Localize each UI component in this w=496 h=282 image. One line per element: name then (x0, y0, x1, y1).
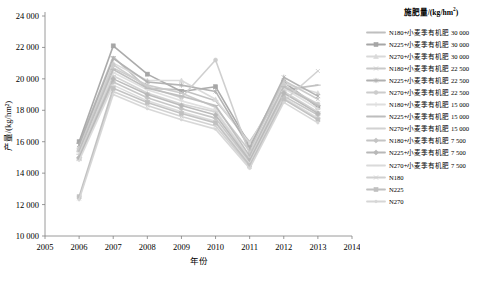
y-tick-label: 16 000 (16, 137, 39, 147)
legend-item-label: N225+小麦季有机肥 15 000 (389, 113, 469, 120)
legend-item[interactable]: N270 (366, 195, 496, 207)
legend-item-label: N270+小麦季有机肥 22 500 (389, 89, 469, 96)
legend-item[interactable]: N180+小麦季有机肥 7 500 (366, 135, 496, 147)
legend-item[interactable]: N225+小麦季有机肥 15 000 (366, 111, 496, 123)
legend-swatch (366, 51, 386, 62)
y-tick-label: 22 000 (16, 42, 39, 52)
legend-swatch (366, 123, 386, 134)
legend-item-label: N180+小麦季有机肥 7 500 (389, 137, 466, 144)
legend-swatch (366, 147, 386, 158)
legend-swatch (366, 87, 386, 98)
legend-swatch (366, 63, 386, 74)
y-axis-title: 产量/(kg/hm²) (3, 101, 13, 151)
y-tick-label: 14 000 (16, 168, 39, 178)
legend-item-label: N225 (389, 186, 404, 193)
x-tick-label: 2013 (309, 242, 326, 252)
series-group (76, 44, 320, 201)
x-tick-label: 2014 (344, 242, 361, 252)
legend-title: 施肥量/(kg/hm2) (366, 6, 496, 17)
y-tick-labels: 10 00012 00014 00016 00018 00020 00022 0… (16, 11, 39, 241)
x-tick-label: 2009 (173, 242, 190, 252)
x-tick-label: 2007 (105, 242, 122, 252)
y-tick-label: 12 000 (16, 200, 39, 210)
x-axis-title: 年份 (190, 256, 208, 266)
legend-swatch (366, 135, 386, 146)
series-line (78, 93, 319, 201)
legend-swatch (366, 196, 386, 207)
legend-item[interactable]: N180 (366, 171, 496, 183)
legend-item[interactable]: N225 (366, 183, 496, 195)
legend-item[interactable]: N180+小麦季有机肥 30 000 (366, 26, 496, 38)
legend-item[interactable]: N180+小麦季有机肥 22 500 (366, 62, 496, 74)
legend-item[interactable]: N270+小麦季有机肥 15 000 (366, 123, 496, 135)
legend-item[interactable]: N180+小麦季有机肥 15 000 (366, 99, 496, 111)
y-tick-label: 10 000 (16, 231, 39, 241)
legend-item-label: N225+小麦季有机肥 22 500 (389, 77, 469, 84)
legend: 施肥量/(kg/hm2) N180+小麦季有机肥 30 000N225+小麦季有… (366, 6, 496, 207)
plot-area: 10 00012 00014 00016 00018 00020 00022 0… (0, 0, 360, 282)
x-tick-label: 2005 (37, 242, 54, 252)
y-tick-label: 24 000 (16, 11, 39, 21)
legend-item[interactable]: N225+小麦季有机肥 22 500 (366, 74, 496, 86)
x-tick-labels: 2005200620072008200920102011201220132014 (37, 242, 361, 252)
plot-svg: 10 00012 00014 00016 00018 00020 00022 0… (0, 0, 360, 282)
legend-swatch (366, 111, 386, 122)
legend-swatch (366, 160, 386, 171)
legend-item-label: N180+小麦季有机肥 22 500 (389, 65, 469, 72)
legend-item-label: N270+小麦季有机肥 15 000 (389, 125, 469, 132)
x-tick-label: 2006 (71, 242, 88, 252)
legend-item[interactable]: N225+小麦季有机肥 7 500 (366, 147, 496, 159)
legend-item[interactable]: N225+小麦季有机肥 30 000 (366, 38, 496, 50)
chart-figure: 10 00012 00014 00016 00018 00020 00022 0… (0, 0, 496, 282)
legend-item-label: N180+小麦季有机肥 30 000 (389, 29, 469, 36)
y-tick-label: 20 000 (16, 74, 39, 84)
legend-item-label: N270+小麦季有机肥 7 500 (389, 162, 466, 169)
legend-item-label: N180 (389, 174, 404, 181)
x-tick-label: 2012 (275, 242, 292, 252)
legend-item-label: N270+小麦季有机肥 30 000 (389, 53, 469, 60)
legend-swatch (366, 172, 386, 183)
legend-item[interactable]: N270+小麦季有机肥 22 500 (366, 86, 496, 98)
legend-item-label: N225+小麦季有机肥 7 500 (389, 149, 466, 156)
legend-item[interactable]: N270+小麦季有机肥 7 500 (366, 159, 496, 171)
legend-swatch (366, 99, 386, 110)
x-tick-label: 2010 (207, 242, 224, 252)
x-tick-label: 2011 (241, 242, 258, 252)
legend-item-label: N225+小麦季有机肥 30 000 (389, 41, 469, 48)
legend-swatch (366, 75, 386, 86)
x-tick-label: 2008 (139, 242, 156, 252)
y-tick-label: 18 000 (16, 105, 39, 115)
legend-item-label: N180+小麦季有机肥 15 000 (389, 101, 469, 108)
legend-item[interactable]: N270+小麦季有机肥 30 000 (366, 50, 496, 62)
legend-item-label: N270 (389, 198, 404, 205)
legend-swatch (366, 184, 386, 195)
legend-swatch (366, 27, 386, 38)
legend-swatch (366, 39, 386, 50)
legend-items: N180+小麦季有机肥 30 000N225+小麦季有机肥 30 000N270… (366, 26, 496, 207)
